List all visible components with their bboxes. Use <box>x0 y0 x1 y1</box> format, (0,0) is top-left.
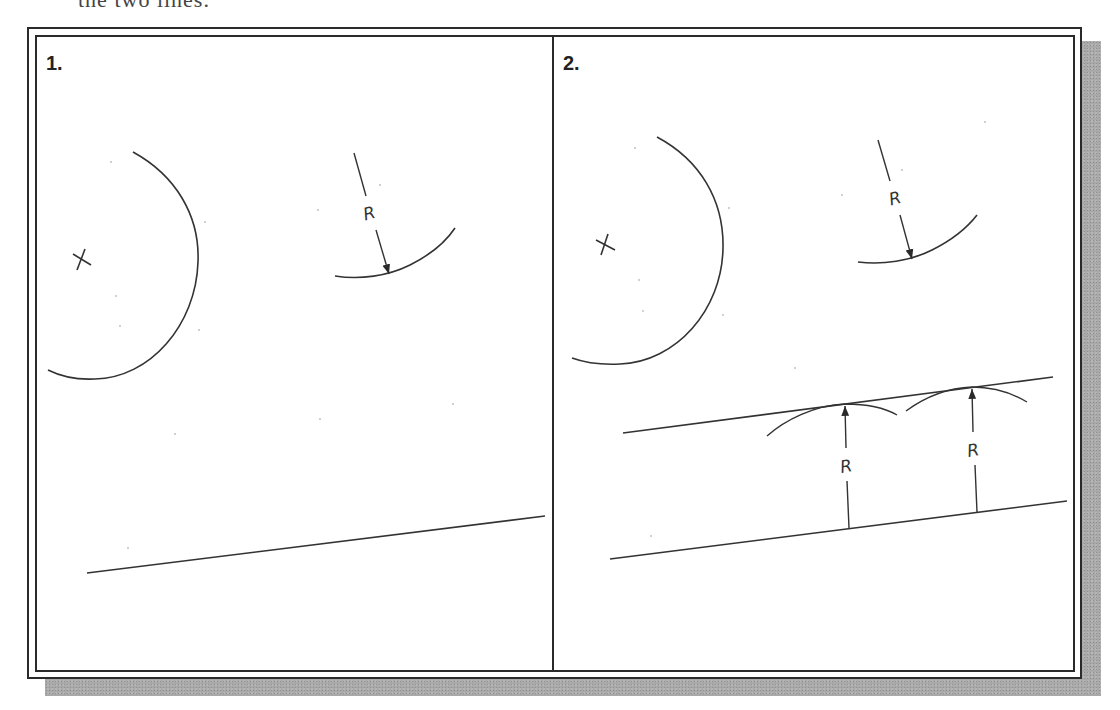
center-mark-icon <box>596 234 615 255</box>
radius-arc <box>335 228 455 278</box>
offset-dimension-right-bottom <box>975 465 977 512</box>
construction-dots <box>110 161 454 549</box>
lower-inclined-line <box>610 501 1067 559</box>
radius-label: R <box>887 187 904 209</box>
offset-arc-left <box>767 404 897 436</box>
radius-leader-top <box>354 153 366 196</box>
radius-leader-top <box>878 140 890 181</box>
offset-dimension-left-top <box>845 406 846 448</box>
panel-2: R R R <box>572 121 1067 559</box>
circle-arc <box>48 152 198 379</box>
circle-arc <box>572 137 723 364</box>
panel-1: R <box>48 152 545 573</box>
diagram-canvas: R R <box>0 0 1120 710</box>
radius-label: R <box>361 202 378 224</box>
offset-radius-label-left: R <box>838 455 853 477</box>
radius-leader-bottom <box>900 215 912 259</box>
radius-leader-bottom <box>376 230 389 274</box>
inclined-line <box>87 516 545 573</box>
offset-radius-label-right: R <box>965 439 980 461</box>
offset-dimension-left-bottom <box>847 481 849 528</box>
radius-arc <box>858 215 977 263</box>
construction-dots <box>634 121 986 537</box>
offset-arc-right <box>906 387 1027 411</box>
offset-dimension-right-top <box>972 389 973 432</box>
center-mark-icon <box>73 249 91 270</box>
